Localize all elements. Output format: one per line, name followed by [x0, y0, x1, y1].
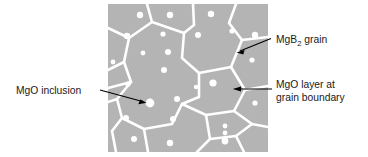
mgo-inclusion-dot [249, 57, 254, 62]
mgo-inclusion-dot [123, 115, 129, 121]
label-mgb2-grain: MgB2 grain [276, 34, 327, 48]
mgo-inclusion-dot [208, 11, 214, 17]
mgo-inclusion-dot [209, 79, 216, 86]
label-mgo-layer-line1: MgO layer at [276, 79, 335, 90]
mgo-inclusion-dot [194, 85, 198, 89]
mgo-inclusion-dot [165, 49, 171, 55]
mgo-inclusion-dot [252, 32, 258, 38]
mgo-inclusion-dot [223, 124, 228, 129]
label-mgb2-grain-mg: MgB [276, 34, 297, 45]
mgo-inclusion-dot [125, 81, 130, 86]
mgo-inclusion-dot [141, 51, 146, 56]
mgo-inclusion-dot [222, 138, 229, 145]
mgo-inclusion-dot [170, 116, 176, 122]
mgo-inclusion-dot [252, 100, 257, 105]
mgo-inclusion-dot [195, 32, 201, 38]
label-mgo-layer-line2: grain boundary [276, 92, 346, 103]
mgo-inclusion-dot [111, 60, 116, 65]
mgo-inclusion-dot [167, 140, 173, 146]
microstructure-panel [108, 4, 268, 152]
mgo-inclusion-dot [160, 31, 165, 36]
mgo-inclusion-dot [223, 131, 228, 136]
label-mgo-inclusion: MgO inclusion [16, 85, 82, 96]
mgo-inclusion-dot [131, 136, 137, 142]
label-mgb2-grain-tail: grain [301, 34, 327, 45]
mgo-inclusion-dot [146, 99, 155, 108]
mgo-inclusion-dot [161, 67, 167, 73]
mgo-inclusion-dot [229, 28, 234, 33]
mgo-inclusion-dot [124, 33, 130, 39]
mgo-inclusion-dot [137, 12, 143, 18]
mgb2-microstructure-figure: MgB2 grain MgO layer at grain boundary M… [0, 0, 368, 157]
mgo-inclusion-dot [167, 12, 173, 18]
mgo-inclusion-dot [174, 96, 180, 102]
